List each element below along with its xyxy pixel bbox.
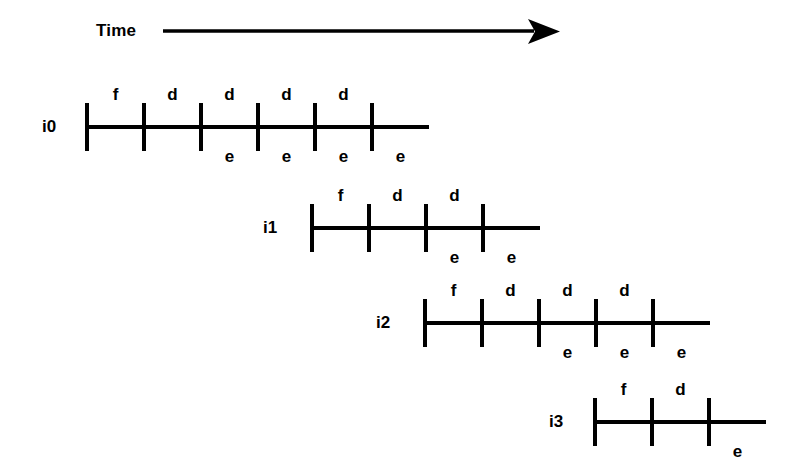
- right-arrow-icon: [160, 16, 565, 48]
- stage-label-below-i0-5: e: [381, 148, 421, 165]
- stage-label-above-i0-1: d: [153, 86, 193, 103]
- stage-label-above-i2-1: d: [491, 282, 531, 299]
- stage-label-below-i0-2: e: [210, 148, 250, 165]
- stage-label-above-i2-2: d: [548, 282, 588, 299]
- row-label-i3: i3: [549, 412, 563, 432]
- row-label-i1: i1: [263, 218, 277, 238]
- pipeline-timing-diagram: Time i0fddddeeeei1fddeei2fdddeeei3fde: [0, 0, 804, 475]
- row-label-i2: i2: [376, 313, 390, 333]
- stage-label-above-i3-1: d: [661, 381, 701, 398]
- stage-label-above-i2-0: f: [434, 282, 474, 299]
- stage-label-above-i2-3: d: [605, 282, 645, 299]
- stage-label-above-i0-4: d: [324, 86, 364, 103]
- stage-label-below-i0-3: e: [267, 148, 307, 165]
- stage-label-below-i2-2: e: [548, 344, 588, 361]
- row-label-i0: i0: [42, 117, 56, 137]
- stage-label-below-i3-2: e: [718, 443, 758, 460]
- stage-label-below-i2-3: e: [605, 344, 645, 361]
- stage-label-below-i0-4: e: [324, 148, 364, 165]
- stage-label-below-i2-4: e: [662, 344, 702, 361]
- stage-label-above-i1-1: d: [378, 187, 418, 204]
- stage-label-above-i3-0: f: [604, 381, 644, 398]
- stage-label-above-i0-2: d: [210, 86, 250, 103]
- stage-label-above-i1-0: f: [321, 187, 361, 204]
- time-axis-label: Time: [96, 21, 136, 41]
- stage-label-above-i0-3: d: [267, 86, 307, 103]
- stage-label-above-i1-2: d: [435, 187, 475, 204]
- stage-label-below-i1-2: e: [435, 249, 475, 266]
- stage-label-above-i0-0: f: [96, 86, 136, 103]
- stage-label-below-i1-3: e: [492, 249, 532, 266]
